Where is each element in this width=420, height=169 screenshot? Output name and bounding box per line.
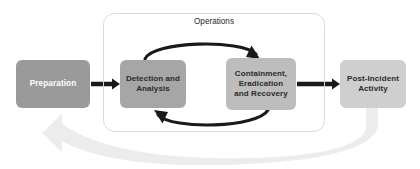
connector-detection-to-containment xyxy=(145,44,260,59)
node-post-incident-activity-label: Post-Incident Activity xyxy=(344,74,402,94)
incident-response-lifecycle-diagram: Operations Preparation Detection and Ana… xyxy=(0,0,420,169)
connector-containment-to-postincident xyxy=(297,79,340,90)
node-detection-and-analysis-label: Detection and Analysis xyxy=(123,74,183,94)
node-preparation-label: Preparation xyxy=(27,79,80,89)
node-containment-eradication-and-recovery-label: Containment, Eradication and Recovery xyxy=(231,69,291,99)
node-post-incident-activity[interactable]: Post-Incident Activity xyxy=(340,60,406,108)
node-detection-and-analysis[interactable]: Detection and Analysis xyxy=(120,60,186,108)
connector-postincident-to-preparation xyxy=(42,108,378,165)
connector-prep-to-detection xyxy=(91,79,120,90)
node-containment-eradication-and-recovery[interactable]: Containment, Eradication and Recovery xyxy=(226,58,296,110)
connector-containment-to-detection xyxy=(154,110,268,125)
node-preparation[interactable]: Preparation xyxy=(16,60,90,108)
operations-group-label: Operations xyxy=(103,17,325,26)
operations-group-label-text: Operations xyxy=(194,17,234,26)
